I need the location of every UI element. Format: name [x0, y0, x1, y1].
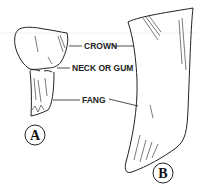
tooth-diagram: CROWN NECK OR GUM FANG A B — [0, 0, 198, 193]
tooth-a — [15, 27, 68, 116]
fang-leader-right — [109, 99, 138, 106]
figure-b-label: B — [158, 166, 167, 181]
label-fang: FANG — [82, 95, 106, 105]
label-crown: CROWN — [84, 41, 117, 51]
figure-a-label: A — [30, 128, 41, 143]
figure-b-marker: B — [153, 163, 173, 183]
figure-a-marker: A — [25, 125, 45, 145]
tooth-b — [125, 8, 193, 173]
label-neck: NECK OR GUM — [72, 63, 133, 73]
